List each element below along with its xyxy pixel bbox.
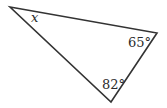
angle-label-x: x xyxy=(31,10,39,25)
triangle-diagram: x 65° 82° xyxy=(0,0,167,108)
angle-label-65: 65° xyxy=(128,35,151,50)
angle-label-82: 82° xyxy=(102,77,125,92)
